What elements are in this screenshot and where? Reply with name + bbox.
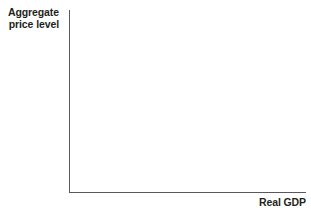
- x-axis-line: [69, 192, 306, 193]
- y-axis-label: Aggregate price level: [0, 7, 59, 30]
- x-axis-label: Real GDP: [196, 196, 306, 208]
- blank-ad-as-graph: Aggregate price level Real GDP: [0, 0, 311, 221]
- plot-area: [70, 10, 306, 192]
